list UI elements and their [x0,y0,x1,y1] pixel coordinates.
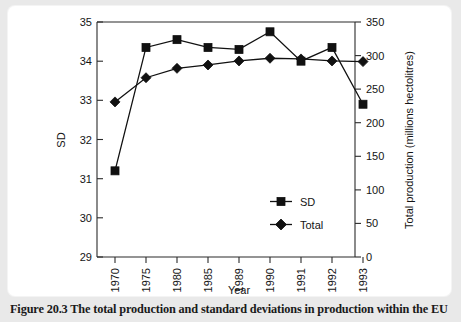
right-tick-label: 150 [366,150,384,162]
left-tick-label: 33 [80,94,92,106]
data-point-total-1992 [327,56,337,66]
right-tick-label: 300 [366,50,384,62]
data-point-total-1985 [203,60,213,70]
x-tick-label: 1993 [357,268,369,292]
legend-item-sd: SD [270,196,315,208]
x-tick-label: 1992 [326,268,338,292]
series-layer [110,28,368,175]
right-axis-title: Total production (millions hectolitres) [403,51,415,229]
x-tick-label: 1975 [140,268,152,292]
right-axis-ticks: 350 300 250 200 150 100 50 0 [355,16,384,263]
line-chart: 35 34 33 32 31 30 29 SD 350 [8,6,451,296]
right-tick-label: 350 [366,16,384,28]
data-point-sd-1970 [111,167,119,175]
left-tick-label: 31 [80,173,92,185]
data-point-sd-1990 [266,28,274,36]
figure-container: 35 34 33 32 31 30 29 SD 350 [0,0,461,322]
legend-label-total: Total [300,219,323,231]
x-tick-label: 1985 [202,268,214,292]
legend-item-total: Total [270,219,323,231]
right-tick-label: 200 [366,117,384,129]
legend-label-sd: SD [300,196,315,208]
x-tick-label: 1990 [264,268,276,292]
data-point-sd-1985 [204,43,212,51]
data-point-sd-1993 [359,100,367,108]
data-point-sd-1975 [142,43,150,51]
x-tick-label: 1980 [171,268,183,292]
left-tick-label: 30 [80,212,92,224]
data-point-sd-1989 [235,45,243,53]
chart-panel: 35 34 33 32 31 30 29 SD 350 [8,6,451,296]
right-tick-label: 0 [366,251,372,263]
left-tick-label: 34 [80,55,92,67]
data-point-total-1990 [265,53,275,63]
data-point-sd-1992 [328,43,336,51]
x-tick-label: 1970 [109,268,121,292]
left-axis-title: SD [55,132,67,147]
legend-marker-square [277,198,285,206]
x-tick-label: 1991 [295,268,307,292]
legend-marker-diamond [276,219,287,230]
data-point-total-1980 [172,63,182,73]
right-tick-label: 50 [366,217,378,229]
left-tick-label: 35 [80,16,92,28]
chart-legend: SD Total [270,196,323,231]
x-axis-title: Year [228,284,251,296]
figure-caption: Figure 20.3 The total production and sta… [10,302,461,317]
left-tick-label: 32 [80,134,92,146]
right-tick-label: 100 [366,184,384,196]
left-axis-ticks: 35 34 33 32 31 30 29 [80,16,103,263]
data-point-sd-1980 [173,36,181,44]
data-point-total-1989 [234,56,244,66]
left-tick-label: 29 [80,251,92,263]
right-tick-label: 250 [366,83,384,95]
